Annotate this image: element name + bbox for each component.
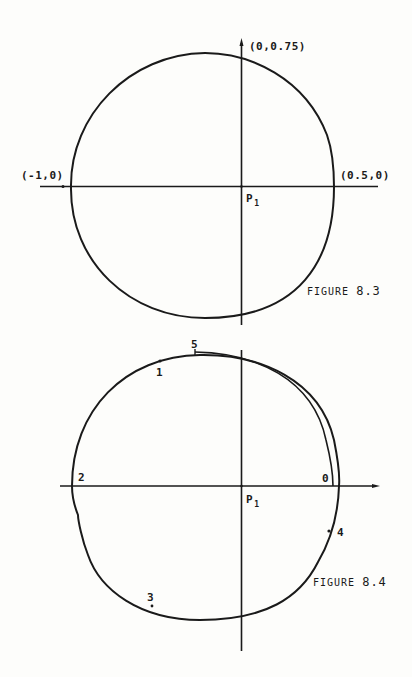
fig84-point-1-marker xyxy=(158,359,161,362)
fig83-origin-letter: P xyxy=(246,192,253,205)
fig84-label-point-2: 2 xyxy=(78,472,85,483)
fig84-caption-number: 8.4 xyxy=(362,575,387,589)
fig83-label-right: (0.5,0) xyxy=(340,170,390,181)
fig84-point-4-marker xyxy=(327,529,330,532)
fig83-origin-subscript: 1 xyxy=(254,199,259,208)
fig83-label-top: (0,0.75) xyxy=(249,41,306,52)
fig84-x-arrow-icon xyxy=(372,484,380,488)
fig83-caption: FIGURE 8.3 xyxy=(307,285,381,297)
fig84-label-origin: P1 xyxy=(246,494,259,505)
fig84-label-point-1: 1 xyxy=(156,367,163,378)
fig83-label-left: (-1,0) xyxy=(21,170,64,181)
fig84-origin-dot xyxy=(240,485,243,488)
fig84-label-point-3: 3 xyxy=(147,592,154,603)
fig84-closed-curve xyxy=(72,355,339,620)
fig84-caption: FIGURE 8.4 xyxy=(313,576,387,588)
fig83-label-origin: P1 xyxy=(246,193,259,204)
fig84-inner-arc-5-to-0 xyxy=(195,352,333,486)
fig84-label-point-4: 4 xyxy=(337,527,344,538)
fig84-label-point-5: 5 xyxy=(191,339,198,350)
fig83-caption-prefix: FIGURE xyxy=(307,286,349,297)
fig84-caption-prefix: FIGURE xyxy=(313,577,355,588)
fig84-point-3-marker xyxy=(151,605,154,608)
fig84-gap-near-4 xyxy=(318,549,320,554)
fig84-origin-subscript: 1 xyxy=(254,500,259,509)
fig84-label-point-0: 0 xyxy=(322,473,329,484)
fig83-caption-number: 8.3 xyxy=(356,284,381,298)
fig84-origin-letter: P xyxy=(246,493,253,506)
